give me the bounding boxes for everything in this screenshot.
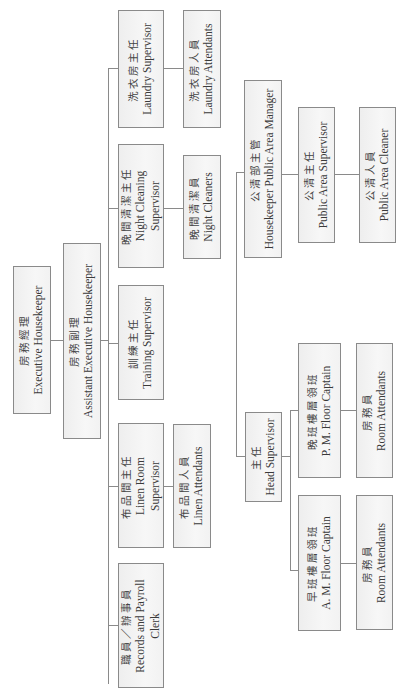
node-executive-housekeeper: 房務經理 Executive Housekeeper xyxy=(13,266,51,414)
node-zh: 公清主任 xyxy=(303,122,316,229)
node-zh: 公清部主管 xyxy=(249,89,262,250)
node-head-supervisor: 主任 Head Supervisor xyxy=(245,412,282,502)
node-public-area-cleaner: 公清人員 Public Area Cleaner xyxy=(359,107,396,243)
node-zh: 早班樓層領班 xyxy=(306,516,319,610)
node-zh: 洗衣房主任 xyxy=(127,23,140,115)
node-pm-floor-captain: 晚班樓層領班 P. M. Floor Captain xyxy=(298,343,341,478)
node-zh: 晚班樓層領班 xyxy=(306,365,319,455)
node-en: Night Cleaning xyxy=(133,167,147,245)
node-linen-room-supervisor: 布品間主任 Linen Room Supervisor xyxy=(118,423,164,548)
connector xyxy=(108,68,109,684)
node-public-area-manager: 公清部主管 Housekeeper Public Area Manager xyxy=(244,80,282,258)
node-zh: 布品間主任 xyxy=(120,453,133,518)
connector xyxy=(108,486,118,487)
node-en: Room Attendants xyxy=(374,522,388,602)
connector xyxy=(282,174,298,175)
connector xyxy=(101,340,102,341)
node-am-room-attendants: 房務員 Room Attendants xyxy=(356,495,393,630)
node-en: P. M. Floor Captain xyxy=(319,365,333,455)
connector xyxy=(341,563,356,564)
node-en: Linen Attendants xyxy=(191,447,205,526)
node-en: Training Supervisor xyxy=(140,297,154,389)
node-zh: 房務經理 xyxy=(18,286,31,395)
node-zh: 洗衣房人員 xyxy=(188,23,201,114)
node-en: Supervisor xyxy=(148,453,162,518)
node-public-area-supervisor: 公清主任 Public Area Supervisor xyxy=(298,107,335,243)
node-en: Linen Room xyxy=(133,453,147,518)
connector xyxy=(101,340,108,341)
connector xyxy=(236,456,245,457)
connector xyxy=(51,340,63,341)
node-zh: 公清人員 xyxy=(364,129,377,222)
connector xyxy=(341,410,356,411)
connector xyxy=(164,486,173,487)
node-zh: 房務副理 xyxy=(68,264,81,418)
connector xyxy=(108,208,118,209)
node-en: Housekeeper Public Area Manager xyxy=(262,89,276,250)
node-en: Clerk xyxy=(148,579,162,672)
node-en: Records and Payroll xyxy=(133,579,147,672)
node-zh: 房務員 xyxy=(361,522,374,602)
node-zh: 主任 xyxy=(250,419,263,496)
node-records-payroll-clerk: 職員／辦事員 Records and Payroll Clerk xyxy=(118,563,164,688)
connector xyxy=(290,570,298,571)
connector xyxy=(164,68,183,69)
connector xyxy=(282,456,290,457)
connector xyxy=(290,410,298,411)
node-zh: 晚間清潔主任 xyxy=(120,167,133,245)
node-en: Head Supervisor xyxy=(263,419,277,496)
connector xyxy=(236,172,244,173)
node-zh: 布品間人員 xyxy=(178,447,191,526)
node-am-floor-captain: 早班樓層領班 A. M. Floor Captain xyxy=(298,495,341,631)
connector xyxy=(236,172,237,457)
node-night-cleaning-supervisor: 晚間清潔主任 Night Cleaning Supervisor xyxy=(118,144,164,268)
node-en: A. M. Floor Captain xyxy=(319,516,333,610)
connector xyxy=(164,208,183,209)
node-en: Night Cleaners xyxy=(201,172,215,241)
node-en: Executive Housekeeper xyxy=(31,286,45,395)
node-en: Laundry Supervisor xyxy=(140,23,154,115)
connector xyxy=(108,68,118,69)
connector xyxy=(290,410,291,570)
connector xyxy=(335,174,359,175)
node-zh: 職員／辦事員 xyxy=(120,579,133,672)
node-en: Laundry Attendants xyxy=(201,23,215,114)
node-laundry-attendants: 晚間清潔員 洗衣房人員 Laundry Attendants xyxy=(183,10,221,128)
node-zh: 訓練主任 xyxy=(127,297,140,389)
connector xyxy=(108,625,118,626)
node-en: Public Area Cleaner xyxy=(377,129,391,222)
node-en: Supervisor xyxy=(148,167,162,245)
connector xyxy=(236,172,237,173)
node-zh: 房務員 xyxy=(361,370,374,450)
node-zh: 晚間清潔員 xyxy=(188,172,201,241)
node-training-supervisor: 訓練主任 Training Supervisor xyxy=(118,285,164,400)
node-en: Assistant Executive Housekeeper xyxy=(81,264,95,418)
node-pm-room-attendants: 房務員 Room Attendants xyxy=(356,343,393,478)
node-en: Public Area Supervisor xyxy=(316,122,330,229)
node-en: Room Attendants xyxy=(374,370,388,450)
node-linen-attendants: 布品間人員 Linen Attendants xyxy=(173,424,211,548)
node-night-cleaners: 晚間清潔員 Night Cleaners xyxy=(183,155,221,259)
node-assistant-executive-housekeeper: 房務副理 Assistant Executive Housekeeper xyxy=(63,243,101,439)
connector xyxy=(108,343,118,344)
node-laundry-supervisor: 洗衣房主任 Laundry Supervisor xyxy=(118,10,164,128)
